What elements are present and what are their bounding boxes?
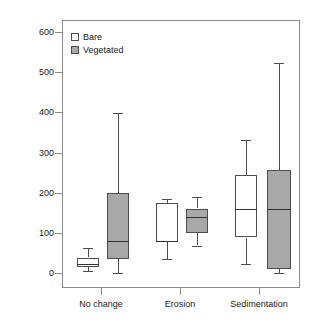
y-tick-label-300: 300 [39, 148, 54, 158]
plot-area: Bare Vegetated [62, 20, 300, 288]
x-tick-no-change [101, 288, 102, 295]
median-line [186, 217, 208, 218]
boxplot-sedimentation-vegetated [267, 21, 291, 287]
whisker-cap-upper [162, 199, 172, 200]
box-iqr [77, 258, 99, 267]
box-iqr [107, 193, 129, 259]
y-tick-label-400: 400 [39, 107, 54, 117]
median-line [107, 241, 129, 242]
x-tick-erosion [180, 288, 181, 295]
y-tick-300 [55, 153, 62, 154]
boxplot-no-change-vegetated [107, 21, 129, 287]
boxplot-erosion-vegetated [186, 21, 208, 287]
whisker-upper [88, 248, 89, 258]
y-tick-0 [55, 273, 62, 274]
boxplot-sedimentation-bare [235, 21, 257, 287]
whisker-cap-lower [113, 273, 123, 274]
y-tick-600 [55, 32, 62, 33]
median-line [267, 209, 291, 210]
whisker-cap-lower [83, 271, 93, 272]
y-tick-label-100: 100 [39, 228, 54, 238]
whisker-lower [246, 238, 247, 265]
y-tick-200 [55, 193, 62, 194]
whisker-lower [118, 259, 119, 273]
box-iqr [235, 175, 257, 238]
median-line [77, 264, 99, 265]
whisker-cap-lower [274, 273, 284, 274]
boxplot-erosion-bare [156, 21, 178, 287]
y-tick-100 [55, 233, 62, 234]
whisker-upper [118, 113, 119, 193]
median-line [235, 209, 257, 210]
y-tick-label-500: 500 [39, 67, 54, 77]
x-tick-label-erosion: Erosion [165, 299, 196, 309]
whisker-cap-lower [192, 246, 202, 247]
whisker-cap-lower [162, 259, 172, 260]
y-tick-label-0: 0 [49, 268, 54, 278]
x-tick-label-sedimentation: Sedimentation [230, 299, 288, 309]
box-iqr [267, 170, 291, 270]
y-tick-label-600: 600 [39, 27, 54, 37]
whisker-cap-upper [274, 63, 284, 64]
whisker-cap-upper [83, 248, 93, 249]
boxplot-no-change-bare [77, 21, 99, 287]
box-iqr [186, 209, 208, 233]
whisker-lower [167, 242, 168, 259]
whisker-cap-upper [241, 140, 251, 141]
whisker-upper [279, 63, 280, 169]
box-iqr [156, 203, 178, 242]
box-plot-figure: Shear Stress (N m-2) 600 500 400 300 200… [0, 0, 316, 321]
whisker-upper [197, 197, 198, 209]
y-tick-500 [55, 72, 62, 73]
y-tick-400 [55, 112, 62, 113]
whisker-cap-upper [113, 113, 123, 114]
x-tick-sedimentation [259, 288, 260, 295]
whisker-lower [197, 233, 198, 246]
y-tick-label-200: 200 [39, 188, 54, 198]
whisker-upper [246, 140, 247, 175]
x-tick-label-no-change: No change [79, 299, 123, 309]
whisker-cap-upper [192, 197, 202, 198]
whisker-cap-lower [241, 264, 251, 265]
